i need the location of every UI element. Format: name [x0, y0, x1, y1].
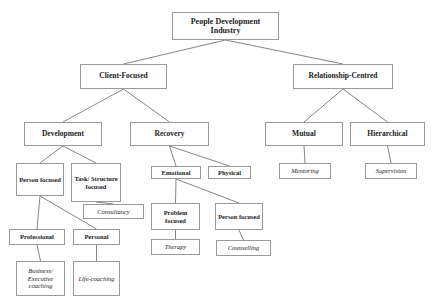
node-task-structure-focused: Task/ Structure focused	[71, 163, 121, 202]
connector-development-task_focused	[63, 146, 96, 163]
connector-relationship-hierarchical	[343, 89, 388, 122]
connector-client-recovery	[124, 89, 170, 122]
node-emotional: Emotional	[151, 166, 201, 179]
node-supervision: Supervision	[365, 163, 417, 179]
node-consultancy: Consultancy	[83, 204, 144, 219]
node-person-focused-development: Person focused	[16, 163, 64, 196]
connector-recovery-physical	[170, 146, 230, 166]
connector-hierarchical-supervision	[388, 146, 392, 163]
connector-layer	[0, 0, 436, 303]
node-mentoring: Mentoring	[279, 163, 331, 179]
node-people-development-industry: People Development Industry	[172, 12, 279, 40]
node-business-executive-coaching: Business/ Executive coaching	[16, 261, 65, 296]
node-recovery: Recovery	[130, 122, 209, 146]
node-physical: Physical	[208, 166, 251, 179]
connector-relationship-mutual	[304, 89, 343, 122]
connector-mutual-mentoring	[304, 146, 305, 163]
connector-recovery-emotional	[170, 146, 177, 166]
connector-development-person_focused_dev	[40, 146, 63, 163]
connector-person_focused_dev-professional	[37, 196, 40, 229]
connector-emotional-person_focused_rec	[176, 179, 239, 203]
node-relationship-centred: Relationship-Centred	[293, 64, 393, 89]
connector-root-relationship	[226, 40, 344, 64]
connector-professional-business_coaching	[37, 245, 41, 261]
node-therapy: Therapy	[151, 239, 200, 255]
connector-emotional-problem_focused	[176, 179, 177, 203]
diagram-canvas: People Development Industry Client-Focus…	[0, 0, 436, 303]
connector-root-client	[124, 40, 226, 64]
node-mutual: Mutual	[265, 122, 343, 146]
connector-person_focused_rec-counselling	[239, 230, 244, 240]
node-problem-focused: Problem focused	[151, 203, 200, 230]
connector-client-development	[63, 89, 124, 122]
node-client-focused: Client-Focused	[80, 64, 167, 89]
node-hierarchical: Hierarchical	[350, 122, 425, 146]
node-counselling: Counselling	[216, 240, 271, 256]
node-professional: Professional	[9, 229, 65, 245]
node-person-focused-recovery: Person focused	[215, 203, 263, 230]
node-development: Development	[24, 122, 102, 146]
node-life-coaching: Life-coaching	[73, 261, 120, 296]
node-personal: Personal	[73, 229, 120, 245]
